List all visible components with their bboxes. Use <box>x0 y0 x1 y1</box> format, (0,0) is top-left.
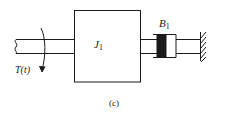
broken-shaft-end-icon <box>15 40 17 54</box>
inertia-block <box>75 11 141 83</box>
torque-arrow-icon <box>40 28 46 72</box>
fixed-wall-icon <box>201 32 207 62</box>
torque-label: T(t) <box>15 64 30 75</box>
connecting-shaft <box>141 40 201 54</box>
figure-caption: (c) <box>109 98 119 108</box>
damper-icon <box>153 35 176 58</box>
damper-label: B1 <box>159 17 170 31</box>
inertia-label: J1 <box>94 38 103 52</box>
